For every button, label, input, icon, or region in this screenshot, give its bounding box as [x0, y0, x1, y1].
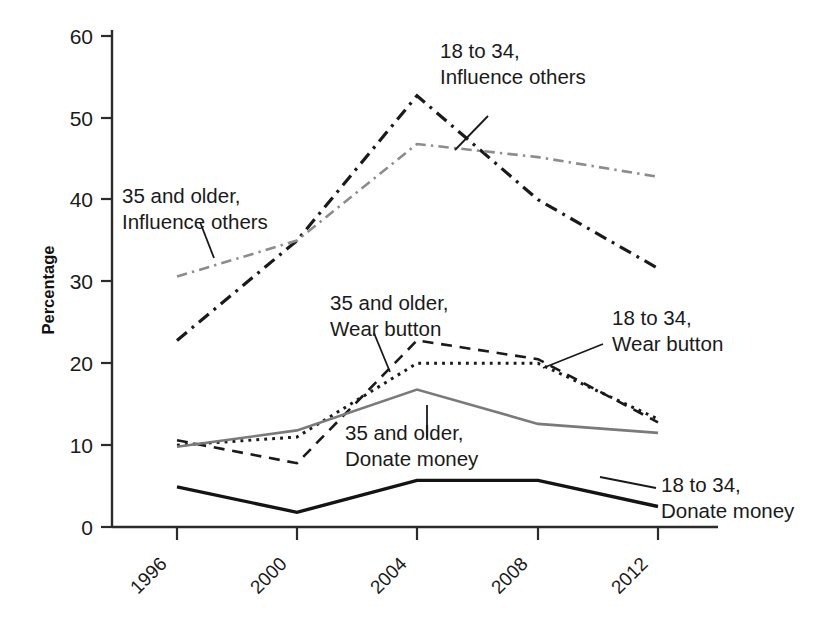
annotation-line-2: Donate money — [661, 498, 794, 524]
annotation-line-2: Influence others — [440, 64, 586, 90]
annotation-line-1: 35 and older, — [330, 290, 449, 316]
annotation-line-2: Donate money — [345, 446, 478, 472]
annotation-line-1: 35 and older, — [345, 420, 478, 446]
x-tick-label-1996: 1996 — [126, 553, 171, 598]
annotation-35-and-older-donate-money: 35 and older, Donate money — [345, 420, 478, 471]
y-tick-label-0: 0 — [81, 516, 93, 539]
x-tick-marks — [177, 527, 658, 540]
y-axis-title: Percentage — [39, 246, 57, 335]
annotation-35-and-older-wear-button: 35 and older, Wear button — [330, 290, 449, 341]
annotation-18-34-wear-button: 18 to 34, Wear button — [612, 305, 723, 356]
series-line-5 — [177, 480, 658, 512]
x-tick-label-2008: 2008 — [487, 553, 532, 598]
y-tick-marks — [101, 36, 112, 527]
x-tick-label-2000: 2000 — [246, 553, 291, 598]
line-chart: 60 50 40 30 20 10 0 Percentage 1996 2000… — [0, 0, 826, 628]
y-tick-label-50: 50 — [70, 107, 93, 130]
y-tick-label-40: 40 — [70, 188, 93, 211]
annotation-line-1: 18 to 34, — [612, 305, 723, 331]
annotation-line-1: 35 and older, — [122, 183, 268, 209]
y-tick-label-60: 60 — [70, 25, 93, 48]
annotation-35-and-older-influence-others: 35 and older, Influence others — [122, 183, 268, 234]
y-tick-label-30: 30 — [70, 270, 93, 293]
annotation-18-34-influence-others: 18 to 34, Influence others — [440, 38, 586, 89]
annotation-line-1: 18 to 34, — [661, 472, 794, 498]
y-tick-label-20: 20 — [70, 352, 93, 375]
x-tick-label-2012: 2012 — [607, 553, 652, 598]
annotation-line-2: Wear button — [612, 331, 723, 357]
annotation-line-2: Influence others — [122, 209, 268, 235]
annotation-line-1: 18 to 34, — [440, 38, 586, 64]
annotation-line-2: Wear button — [330, 316, 449, 342]
x-tick-label-2004: 2004 — [366, 553, 411, 598]
annotation-18-34-donate-money: 18 to 34, Donate money — [661, 472, 794, 523]
y-tick-label-10: 10 — [70, 434, 93, 457]
